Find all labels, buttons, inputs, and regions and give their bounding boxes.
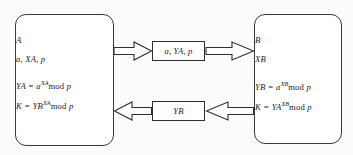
party-b-yb-base: YB = a [255,82,281,92]
diffie-hellman-diagram: A a, XA, p YA = aXAmod p K = YBXAmod p B… [0,0,353,155]
party-a-box: A a, XA, p YA = aXAmod p K = YBXAmod p [15,14,114,146]
party-b-k-base: K = YA [255,102,281,112]
party-b-yb-mod: mod [288,82,304,92]
party-a-ya-modulus: p [67,81,72,91]
party-a-ya-mod: mod [48,81,64,91]
arrow-left-b-to-message-icon [206,100,254,122]
party-a-shared-secret-formula: K = YBXAmod p [16,100,113,110]
party-b-label: B [255,36,341,45]
arrow-left-message-to-a-icon [114,100,152,122]
party-a-label: A [16,36,113,45]
party-a-parameters: a, XA, p [16,55,113,64]
party-b-yb-modulus: p [306,82,311,92]
party-a-ya-base: YA = a [16,81,41,91]
party-a-k-modulus: p [69,101,74,111]
party-b-k-modulus: p [307,102,312,112]
message-box-b-to-a: YB [152,101,205,121]
party-b-public-key-formula: YB = aXBmod p [255,81,341,91]
party-b-k-exponent: XB [281,100,289,107]
arrow-right-a-to-message-icon [114,40,152,62]
party-a-k-exponent: XA [43,99,51,106]
party-a-k-base: K = YB [16,101,43,111]
message-box-a-to-b: a, YA, p [152,41,205,61]
message-top-text: a, YA, p [164,47,192,56]
party-a-k-mod: mod [51,101,67,111]
party-b-box: B XB YB = aXBmod p K = YAXBmod p [254,14,342,144]
party-b-k-mod: mod [289,102,305,112]
arrow-right-message-to-b-icon [206,40,254,62]
party-a-public-key-formula: YA = aXAmod p [16,80,113,90]
message-bottom-text: YB [173,107,183,116]
party-b-parameters: XB [255,55,341,64]
party-b-shared-secret-formula: K = YAXBmod p [255,101,341,111]
